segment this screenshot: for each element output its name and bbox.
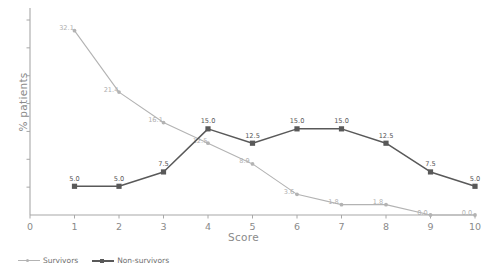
- data-point-marker[interactable]: [428, 169, 433, 174]
- data-point-label: 0.0: [462, 209, 473, 217]
- legend-label-non-survivors: Non-survivors: [117, 256, 169, 265]
- y-axis-title: % patients: [17, 57, 29, 147]
- series-line: [75, 31, 476, 215]
- data-point-marker[interactable]: [294, 126, 299, 131]
- data-point-label: 0.0: [417, 209, 428, 217]
- data-point-label: 32.1: [59, 24, 74, 32]
- series-survivors: 32.121.416.112.58.93.61.81.80.00.0: [59, 24, 477, 217]
- data-point-label: 15.0: [334, 117, 349, 125]
- data-point-marker[interactable]: [340, 203, 344, 207]
- data-point-marker[interactable]: [295, 192, 299, 196]
- data-point-marker[interactable]: [116, 184, 121, 189]
- data-point-label: 16.1: [148, 116, 163, 124]
- data-point-label: 8.9: [239, 157, 250, 165]
- data-point-label: 12.5: [245, 132, 260, 140]
- chart-container: 01234567891032.121.416.112.58.93.61.81.8…: [0, 0, 487, 277]
- legend-swatch-survivors: [18, 257, 40, 264]
- data-point-label: 15.0: [201, 117, 216, 125]
- legend-item-non-survivors[interactable]: Non-survivors: [92, 256, 169, 265]
- data-point-label: 5.0: [114, 175, 125, 183]
- data-point-marker[interactable]: [250, 141, 255, 146]
- legend-label-survivors: Survivors: [43, 256, 78, 265]
- data-point-marker[interactable]: [251, 162, 255, 166]
- data-point-marker[interactable]: [205, 126, 210, 131]
- chart-legend: Survivors Non-survivors: [18, 256, 169, 265]
- data-point-label: 1.8: [373, 198, 384, 206]
- data-point-marker[interactable]: [429, 213, 433, 217]
- data-point-label: 1.8: [328, 198, 339, 206]
- data-point-marker[interactable]: [473, 213, 477, 217]
- data-point-label: 7.5: [158, 160, 169, 168]
- data-point-label: 5.0: [69, 175, 80, 183]
- series-non-survivors: 5.05.07.515.012.515.015.012.57.55.0: [69, 117, 480, 189]
- legend-swatch-non-survivors: [92, 257, 114, 264]
- data-point-marker[interactable]: [72, 184, 77, 189]
- data-point-marker[interactable]: [383, 141, 388, 146]
- data-point-marker[interactable]: [161, 169, 166, 174]
- data-point-label: 5.0: [470, 175, 481, 183]
- data-point-label: 15.0: [290, 117, 305, 125]
- data-point-marker[interactable]: [384, 203, 388, 207]
- data-point-marker[interactable]: [472, 184, 477, 189]
- data-point-label: 12.5: [379, 132, 394, 140]
- series-line: [75, 129, 476, 186]
- data-point-marker[interactable]: [339, 126, 344, 131]
- data-point-label: 7.5: [425, 160, 436, 168]
- data-point-label: 21.4: [104, 86, 119, 94]
- legend-item-survivors[interactable]: Survivors: [18, 256, 78, 265]
- data-point-label: 3.6: [284, 188, 295, 196]
- x-axis-title: Score: [0, 231, 487, 243]
